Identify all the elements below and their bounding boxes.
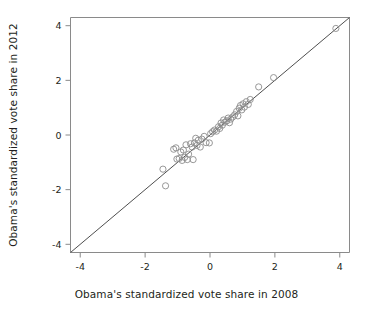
x-axis-title: Obama's standardized vote share in 2008 <box>0 288 373 300</box>
plot-canvas: -4-2024-4-2024 <box>0 0 373 311</box>
svg-text:0: 0 <box>207 261 213 272</box>
svg-text:-2: -2 <box>140 261 149 272</box>
svg-text:4: 4 <box>55 20 61 31</box>
svg-text:2: 2 <box>272 261 278 272</box>
svg-text:2: 2 <box>55 75 61 86</box>
svg-text:-4: -4 <box>52 239 61 250</box>
scatter-plot-figure: -4-2024-4-2024 Obama's standardized vote… <box>0 0 373 311</box>
svg-text:4: 4 <box>337 261 343 272</box>
svg-text:-2: -2 <box>52 184 61 195</box>
y-axis-title-container: Obama's standardized vote share in 2012 <box>0 0 26 270</box>
y-axis-title: Obama's standardized vote share in 2012 <box>7 23 19 247</box>
identity-reference-line <box>71 18 350 253</box>
data-point-series <box>160 25 339 189</box>
svg-text:-4: -4 <box>75 261 84 272</box>
svg-text:0: 0 <box>55 130 61 141</box>
